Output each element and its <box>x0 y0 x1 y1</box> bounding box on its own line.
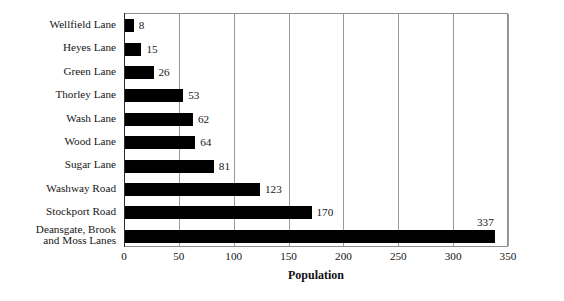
bar-value-label: 123 <box>265 182 282 196</box>
bar-value-label: 64 <box>200 135 211 149</box>
bar-value-label: 170 <box>317 205 334 219</box>
x-tick-label-200: 200 <box>335 249 352 263</box>
x-tick-label-100: 100 <box>225 249 242 263</box>
bar-value-label: 15 <box>146 42 157 56</box>
category-label: Deansgate, Brook and Moss Lanes <box>0 224 116 247</box>
bar-value-label: 26 <box>159 65 170 79</box>
bar-row: 123 <box>125 183 507 196</box>
x-tick-label-50: 50 <box>173 249 184 263</box>
category-axis: Wellfield LaneHeyes LaneGreen LaneThorle… <box>0 13 120 247</box>
bar <box>125 136 195 149</box>
bar-row: 64 <box>125 136 507 149</box>
bar-row: 81 <box>125 160 507 173</box>
bar <box>125 89 183 102</box>
x-axis-ticks: 050100150200250300350 <box>124 249 508 265</box>
category-label: Thorley Lane <box>0 89 116 101</box>
category-label: Heyes Lane <box>0 42 116 54</box>
bar <box>125 160 214 173</box>
bar <box>125 183 260 196</box>
category-label: Wash Lane <box>0 113 116 125</box>
bar-value-label: 62 <box>198 112 209 126</box>
bar <box>125 230 495 243</box>
x-axis-title: Population <box>124 268 508 283</box>
category-label: Stockport Road <box>0 206 116 218</box>
bar-row: 170 <box>125 206 507 219</box>
bar <box>125 113 193 126</box>
category-label: Wellfield Lane <box>0 19 116 31</box>
bar-row: 337 <box>125 230 507 243</box>
x-tick-label-0: 0 <box>121 249 127 263</box>
bar <box>125 19 134 32</box>
gridline-350 <box>508 14 509 246</box>
category-label: Wood Lane <box>0 136 116 148</box>
bar-value-label: 81 <box>219 159 230 173</box>
x-tick-label-150: 150 <box>280 249 297 263</box>
bar-value-label: 337 <box>477 215 494 229</box>
bar-row: 53 <box>125 89 507 102</box>
bar <box>125 43 141 56</box>
bar-row: 8 <box>125 19 507 32</box>
x-tick-label-350: 350 <box>500 249 517 263</box>
bar <box>125 206 312 219</box>
category-label: Green Lane <box>0 66 116 78</box>
plot-area: 8152653626481123170337 <box>124 13 508 247</box>
category-label: Sugar Lane <box>0 159 116 171</box>
bar-row: 15 <box>125 43 507 56</box>
bar <box>125 66 154 79</box>
population-bar-chart: Wellfield LaneHeyes LaneGreen LaneThorle… <box>0 0 564 301</box>
x-tick-label-300: 300 <box>445 249 462 263</box>
bar-row: 62 <box>125 113 507 126</box>
bar-value-label: 53 <box>188 88 199 102</box>
bar-row: 26 <box>125 66 507 79</box>
bar-value-label: 8 <box>139 18 145 32</box>
category-label: Washway Road <box>0 183 116 195</box>
x-tick-label-250: 250 <box>390 249 407 263</box>
